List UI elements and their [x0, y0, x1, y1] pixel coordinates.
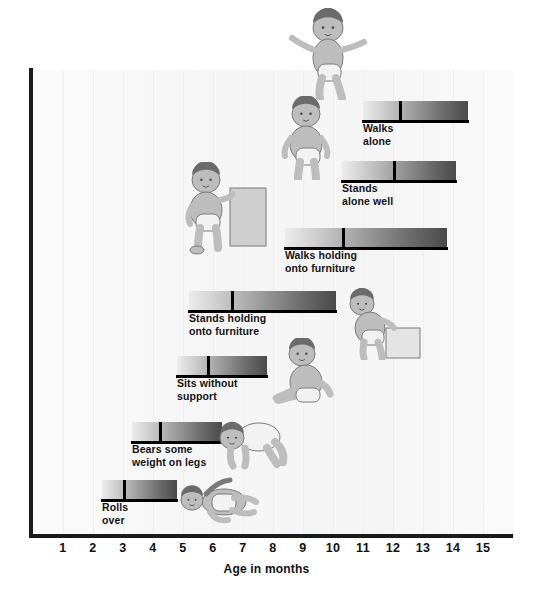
milestone-label: Stands holding onto furniture	[189, 312, 266, 337]
x-tick-label: 2	[81, 541, 105, 555]
y-axis-line	[29, 68, 33, 538]
x-tick-label: 8	[261, 541, 285, 555]
x-tick-label: 9	[291, 541, 315, 555]
median-age-tick	[342, 228, 345, 247]
median-age-tick	[207, 356, 210, 375]
milestone-bar	[189, 291, 336, 310]
x-tick-label: 11	[351, 541, 375, 555]
x-tick-label: 14	[441, 541, 465, 555]
median-age-tick	[393, 161, 396, 180]
milestone-label: Sits without support	[177, 377, 238, 402]
x-tick-label: 13	[411, 541, 435, 555]
x-tick-label: 1	[51, 541, 75, 555]
median-age-tick	[231, 291, 234, 310]
gridline	[483, 70, 484, 536]
milestone-label: Stands alone well	[342, 182, 393, 207]
gridline	[453, 70, 454, 536]
x-tick-label: 5	[171, 541, 195, 555]
x-tick-label: 15	[471, 541, 495, 555]
x-tick-label: 10	[321, 541, 345, 555]
milestone-bar	[132, 422, 222, 441]
x-tick-label: 12	[381, 541, 405, 555]
x-tick-label: 6	[201, 541, 225, 555]
milestone-bar	[177, 356, 267, 375]
milestone-bar	[342, 161, 456, 180]
gridline	[93, 70, 94, 536]
milestone-label: Rolls over	[102, 501, 128, 526]
median-age-tick	[123, 480, 126, 499]
milestone-bar	[102, 480, 177, 499]
x-axis-line	[29, 534, 513, 538]
milestone-label: Walks alone	[363, 122, 393, 147]
gridline	[123, 70, 124, 536]
median-age-tick	[399, 101, 402, 120]
milestone-bar	[363, 101, 468, 120]
milestone-label: Bears some weight on legs	[132, 443, 206, 468]
x-axis-title: Age in months	[0, 562, 533, 576]
milestone-label: Walks holding onto furniture	[285, 249, 357, 274]
x-tick-label: 7	[231, 541, 255, 555]
x-tick-label: 4	[141, 541, 165, 555]
median-age-tick	[159, 422, 162, 441]
x-tick-label: 3	[111, 541, 135, 555]
milestone-bar	[285, 228, 447, 247]
developmental-milestones-chart: 123456789101112131415 Age in months Roll…	[0, 0, 533, 595]
gridline	[63, 70, 64, 536]
gridline	[423, 70, 424, 536]
